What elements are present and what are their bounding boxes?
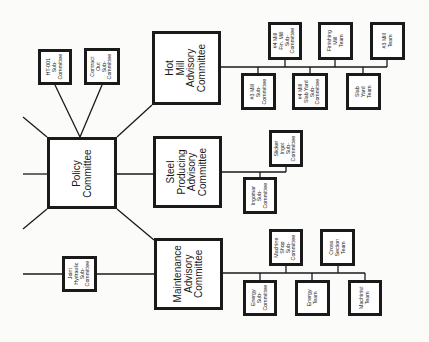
ht001-subcommittee-box: HT-001 Sub- Committee — [38, 49, 72, 85]
hot-mill-advisory-box: Hot Mill Advisory Committee — [152, 31, 221, 105]
energy-subcommittee-box: Energy Sub- Committee — [243, 280, 277, 316]
machine-shop-subcommittee-box: Machine Shop Sub- Committee — [269, 229, 303, 266]
slicker-ingot-label: Slicker Ingot Sub- Committee — [274, 136, 297, 162]
slicker-ingot-subcommittee-box: Slicker Ingot Sub- Committee — [269, 130, 303, 167]
mill3-sub-label: #3 Mill Sub- Committee — [250, 79, 267, 105]
ingomar-subcommittee-box: Ingomar Sub- Committee — [243, 177, 277, 214]
energy-team-box: Energy Team — [295, 280, 330, 316]
ht001-label: HT-001 Sub- Committee — [46, 54, 63, 80]
contract-out-label: Contract Out Sub- Committee — [90, 54, 113, 80]
finishing-mill-team-label: Finishing Mill Team — [327, 30, 344, 51]
joint-hydraulic-subcommittee-box: Joint Hydraulic Sub- Committee — [62, 256, 97, 292]
ingomar-label: Ingomar Sub- Committee — [251, 183, 268, 209]
contract-out-subcommittee-box: Contract Out Sub- Committee — [84, 48, 120, 85]
mill4-slab-yard-subcommittee-box: #4 Mill Slab Yard Sub- Committee — [292, 73, 328, 110]
steel-producing-advisory-box: Steel Producing Advisory Committee — [153, 136, 222, 208]
energy-team-label: Energy Team — [307, 290, 319, 307]
hot-mill-advisory-label: Hot Mill Advisory Committee — [165, 44, 207, 92]
mill3-subcommittee-box: #3 Mill Sub- Committee — [241, 73, 276, 110]
finishing-mill-team-box: Finishing Mill Team — [318, 22, 353, 60]
steel-producing-advisory-label: Steel Producing Advisory Committee — [166, 148, 208, 196]
mill3-team-box: #3 Mill Team — [370, 22, 405, 60]
slab-yard-team-box: Slab Yard Team — [346, 73, 381, 110]
maintenance-advisory-box: Maintenance Advisory Committee — [154, 238, 223, 310]
org-chart: Policy Committee Hot Mill Advisory Commi… — [0, 0, 429, 342]
cross-section-label: Cross Section Team — [329, 239, 346, 257]
mill3-team-label: #3 Mill Team — [382, 33, 394, 48]
policy-committee-box: Policy Committee — [47, 137, 117, 209]
slab-yard-team-label: Slab Yard Team — [355, 85, 372, 98]
policy-committee-label: Policy Committee — [71, 149, 92, 197]
cross-section-team-box: Cross Section Team — [320, 229, 355, 266]
mill4-slab-label: #4 Mill Slab Yard Sub- Committee — [298, 79, 321, 105]
maintenance-advisory-label: Maintenance Advisory Committee — [173, 245, 205, 302]
machinist-team-label: Machinist Team — [359, 287, 371, 309]
mill4-fin-mill-subcommittee-box: #4 Mill Fin. Mill Sub- Committee — [268, 22, 302, 60]
machinist-team-box: Machinist Team — [348, 280, 382, 316]
machine-shop-label: Machine Shop Sub- Committee — [274, 235, 297, 261]
energy-sub-label: Energy Sub- Committee — [251, 285, 268, 311]
joint-hydraulic-label: Joint Hydraulic Sub- Committee — [68, 261, 91, 287]
mill4-fin-label: #4 Mill Fin. Mill Sub- Committee — [273, 28, 296, 54]
